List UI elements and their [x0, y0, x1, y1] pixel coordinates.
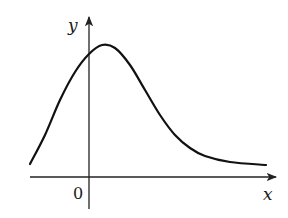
- origin-label: 0: [73, 184, 83, 203]
- y-axis-label: y: [67, 15, 78, 35]
- function-curve: [30, 45, 266, 165]
- function-graph: y 0 x: [0, 0, 288, 218]
- x-axis-label: x: [263, 184, 273, 204]
